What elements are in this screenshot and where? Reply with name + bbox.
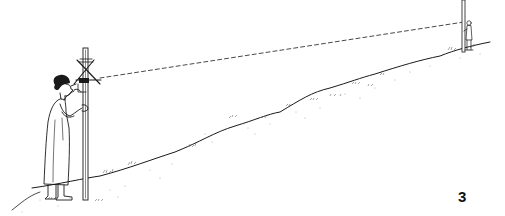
survey-illustration	[0, 0, 505, 216]
distant-assistant	[462, 0, 473, 52]
assistant-staff	[462, 0, 465, 52]
ground-stipple	[22, 54, 481, 213]
observer-woman	[44, 75, 88, 200]
grass-tufts	[48, 44, 474, 201]
figure-number: 3	[458, 188, 466, 205]
hair	[54, 75, 70, 90]
sight-line	[100, 22, 464, 78]
